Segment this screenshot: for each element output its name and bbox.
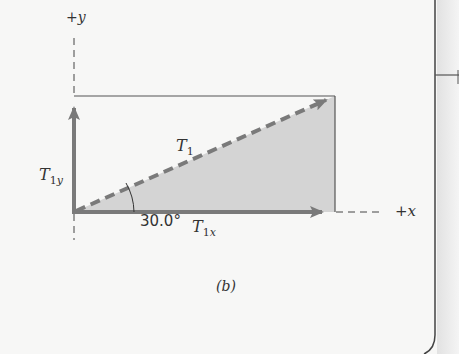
vector-t1y-label: T1y: [39, 165, 64, 187]
vector-t1x-label: T1x: [192, 217, 217, 239]
x-axis-label: +x: [395, 202, 417, 220]
y-axis-label: +y: [66, 9, 87, 25]
page-border: [424, 0, 435, 354]
vector-t1-label: T1: [176, 136, 194, 158]
angle-label: 30.0°: [140, 212, 181, 230]
figure-caption: (b): [216, 278, 236, 294]
vector-diagram: +y T1 T1y T1x 30.0° +x (b): [0, 0, 459, 354]
